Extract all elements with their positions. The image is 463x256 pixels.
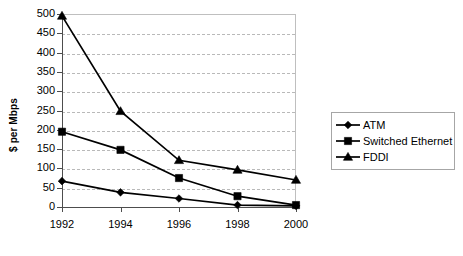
gridline [62,34,295,35]
legend-item-fddi[interactable]: FDDI [335,149,450,165]
x-tick-label: 1994 [91,218,151,230]
y-tick-label: 200 [3,124,55,135]
legend-item-switched-ethernet[interactable]: Switched Ethernet [335,133,450,149]
y-tick-mark [57,53,62,54]
line-chart: $ per Mbps 50045040035030025020015010050… [0,0,463,256]
chart-legend: ATMSwitched EthernetFDDI [331,112,455,170]
gridline [62,54,295,55]
x-tick-mark [238,207,239,212]
x-tick-label: 1998 [208,218,268,230]
y-tick-label: 250 [3,105,55,116]
gridline [62,73,295,74]
square-marker-icon [335,134,361,148]
y-tick-label: 450 [3,27,55,38]
y-tick-label: 300 [3,85,55,96]
y-tick-mark [57,72,62,73]
x-tick-mark [296,207,297,212]
gridline [62,131,295,132]
y-tick-mark [57,33,62,34]
gridline [62,112,295,113]
y-tick-mark [57,91,62,92]
triangle-marker-icon [335,150,361,164]
y-tick-label: 350 [3,66,55,77]
legend-item-label: Switched Ethernet [363,135,452,147]
y-tick-label: 150 [3,143,55,154]
y-tick-mark [57,111,62,112]
gridline [62,189,295,190]
y-tick-label: 500 [3,8,55,19]
gridline [62,150,295,151]
x-tick-mark [121,207,122,212]
gridline [62,169,295,170]
y-tick-mark [57,188,62,189]
x-tick-label: 1992 [32,218,92,230]
y-tick-label: 400 [3,47,55,58]
x-tick-mark [179,207,180,212]
legend-item-label: ATM [363,119,385,131]
gridline [62,92,295,93]
x-tick-mark [62,207,63,212]
y-tick-label: 0 [3,201,55,212]
y-tick-mark [57,14,62,15]
diamond-marker-icon [335,118,361,132]
y-tick-label: 50 [3,182,55,193]
x-tick-label: 1996 [149,218,209,230]
y-axis-line [62,14,63,208]
legend-item-label: FDDI [363,151,389,163]
legend-item-atm[interactable]: ATM [335,117,450,133]
plot-area [62,14,296,207]
x-tick-label: 2000 [266,218,326,230]
y-tick-mark [57,130,62,131]
y-tick-mark [57,168,62,169]
y-tick-label: 100 [3,162,55,173]
y-tick-mark [57,149,62,150]
